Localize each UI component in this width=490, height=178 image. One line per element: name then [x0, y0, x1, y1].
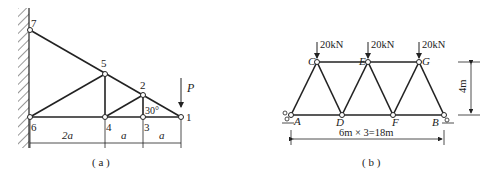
node-c-label: C [308, 55, 316, 67]
figure-a: 7 5 2 6 4 3 1 30° P 2a a a ( a ) [18, 8, 195, 169]
load-label-g: 20kN [422, 39, 446, 50]
node-b-label: B [432, 116, 439, 128]
node-3-label: 3 [144, 121, 150, 133]
caption-b: ( b ) [362, 156, 381, 169]
node-a-label: A [293, 115, 301, 127]
roller-support-b [442, 118, 454, 123]
node-6-label: 6 [31, 121, 37, 133]
angle-label: 30° [145, 105, 159, 116]
node-1-label: 1 [186, 111, 192, 123]
node-e-label: E [358, 55, 366, 67]
load-label-c: 20kN [320, 39, 344, 50]
dim-2a: 2a [62, 129, 74, 141]
node-g-label: G [422, 55, 430, 67]
truss-b-members [291, 62, 444, 115]
load-label-e: 20kN [371, 39, 395, 50]
node-5-label: 5 [101, 57, 107, 69]
node-4-label: 4 [106, 121, 112, 133]
dim-a-1: a [121, 129, 127, 141]
node-7-label: 7 [31, 17, 37, 29]
span-label: 6m × 3=18m [339, 127, 393, 138]
load-p-label: P [186, 81, 195, 95]
node-2-label: 2 [140, 79, 146, 91]
caption-a: ( a ) [92, 156, 110, 169]
figure-b: A C D E F G B 20kN 20kN 20kN 4m 6m × 3=1… [282, 39, 480, 169]
dim-a-2: a [159, 129, 165, 141]
truss-diagrams: 7 5 2 6 4 3 1 30° P 2a a a ( a ) [0, 0, 490, 178]
height-label: 4m [457, 80, 468, 93]
